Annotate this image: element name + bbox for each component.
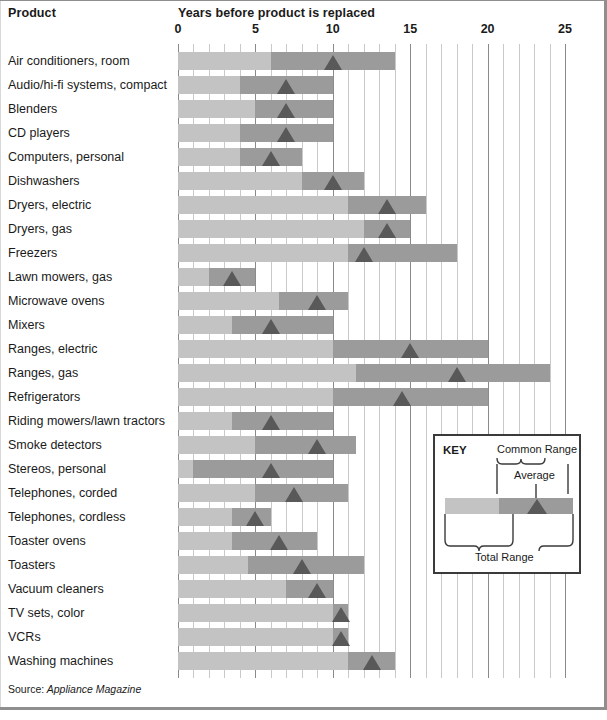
row-label: Dryers, electric xyxy=(8,196,91,214)
common-range-bar xyxy=(232,316,333,334)
bar-row xyxy=(178,172,565,190)
axis-tick-25: 25 xyxy=(558,22,572,36)
chart-page: Product Years before product is replaced… xyxy=(0,0,607,720)
bar-row xyxy=(178,628,565,646)
average-marker xyxy=(363,655,381,670)
bar-row xyxy=(178,100,565,118)
column-header-product: Product xyxy=(8,6,56,20)
average-marker xyxy=(393,391,411,406)
average-marker xyxy=(308,295,326,310)
average-marker xyxy=(223,271,241,286)
row-label: Audio/hi-fi systems, compact xyxy=(8,76,167,94)
total-range-bar xyxy=(178,604,348,622)
average-marker xyxy=(285,487,303,502)
row-label: Mixers xyxy=(8,316,45,334)
average-marker xyxy=(262,151,280,166)
row-label: Telephones, corded xyxy=(8,484,117,502)
average-marker xyxy=(270,535,288,550)
average-marker xyxy=(308,439,326,454)
average-marker xyxy=(332,631,350,646)
legend-key-box: KEY Common Range Average Total Range xyxy=(433,434,581,574)
row-label: CD players xyxy=(8,124,70,142)
row-label: Washing machines xyxy=(8,652,113,670)
row-label: Toaster ovens xyxy=(8,532,86,550)
bar-row xyxy=(178,148,565,166)
row-label: Ranges, electric xyxy=(8,340,98,358)
average-marker xyxy=(277,127,295,142)
axis-tick-20: 20 xyxy=(481,22,495,36)
legend-average-marker xyxy=(527,499,547,514)
bar-row xyxy=(178,580,565,598)
legend-average-label: Average xyxy=(514,469,555,481)
average-marker xyxy=(332,607,350,622)
row-label: Microwave ovens xyxy=(8,292,105,310)
average-marker xyxy=(308,583,326,598)
bar-row xyxy=(178,364,565,382)
source-label: Source: xyxy=(8,683,44,695)
average-marker xyxy=(293,559,311,574)
average-marker xyxy=(378,199,396,214)
plot-area: 0510152025 xyxy=(178,44,565,678)
common-range-bar xyxy=(232,412,333,430)
bar-row xyxy=(178,316,565,334)
bar-row xyxy=(178,220,565,238)
average-marker xyxy=(324,175,342,190)
legend-common-range-label: Common Range xyxy=(497,443,577,455)
page-border-left xyxy=(0,0,1,710)
major-gridline xyxy=(565,44,566,678)
row-label: Telephones, cordless xyxy=(8,508,125,526)
bar-row xyxy=(178,124,565,142)
row-label: Ranges, gas xyxy=(8,364,78,382)
row-label: Air conditioners, room xyxy=(8,52,130,70)
average-marker xyxy=(277,103,295,118)
row-label: Freezers xyxy=(8,244,57,262)
row-label: Dryers, gas xyxy=(8,220,72,238)
legend-title: KEY xyxy=(443,444,467,456)
source-value: Appliance Magazine xyxy=(44,683,141,695)
row-label: Refrigerators xyxy=(8,388,80,406)
average-marker xyxy=(262,415,280,430)
bar-row xyxy=(178,388,565,406)
bar-row xyxy=(178,604,565,622)
row-label: VCRs xyxy=(8,628,41,646)
bar-row xyxy=(178,268,565,286)
bar-row xyxy=(178,76,565,94)
average-marker xyxy=(246,511,264,526)
page-border-top xyxy=(0,0,607,1)
row-label: Lawn mowers, gas xyxy=(8,268,112,286)
bar-row xyxy=(178,652,565,670)
bar-row xyxy=(178,196,565,214)
axis-tick-10: 10 xyxy=(326,22,340,36)
row-label: Dishwashers xyxy=(8,172,80,190)
average-marker xyxy=(378,223,396,238)
average-marker xyxy=(448,367,466,382)
source-note: Source: Appliance Magazine xyxy=(8,683,141,695)
row-label: Vacuum cleaners xyxy=(8,580,104,598)
bar-row xyxy=(178,292,565,310)
row-label: Stereos, personal xyxy=(8,460,106,478)
bar-row xyxy=(178,52,565,70)
average-marker xyxy=(277,79,295,94)
total-range-bar xyxy=(178,628,348,646)
row-label: TV sets, color xyxy=(8,604,84,622)
average-marker xyxy=(262,319,280,334)
average-marker xyxy=(324,55,342,70)
common-range-bar xyxy=(255,436,356,454)
row-label: Smoke detectors xyxy=(8,436,102,454)
average-marker xyxy=(401,343,419,358)
average-marker xyxy=(262,463,280,478)
row-label: Computers, personal xyxy=(8,148,124,166)
axis-tick-0: 0 xyxy=(175,22,182,36)
axis-tick-5: 5 xyxy=(252,22,259,36)
row-label: Toasters xyxy=(8,556,55,574)
bar-row xyxy=(178,340,565,358)
legend-total-range-label: Total Range xyxy=(475,551,534,563)
bar-row xyxy=(178,412,565,430)
axis-tick-15: 15 xyxy=(403,22,417,36)
row-label: Blenders xyxy=(8,100,57,118)
bar-row xyxy=(178,244,565,262)
row-label: Riding mowers/lawn tractors xyxy=(8,412,165,430)
average-marker xyxy=(355,247,373,262)
page-border-bottom xyxy=(0,707,607,710)
axis-title: Years before product is replaced xyxy=(178,6,375,20)
